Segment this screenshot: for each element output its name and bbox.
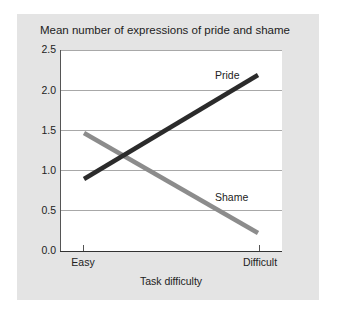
y-tick-label: 1.5 (30, 124, 56, 136)
series-label-shame: Shame (215, 191, 248, 203)
gridlines (60, 51, 282, 211)
shame-line (84, 133, 258, 233)
y-tick-label: 2.0 (30, 84, 56, 96)
series-label-pride: Pride (215, 69, 240, 81)
x-tick-label-easy: Easy (63, 256, 103, 268)
y-tick-label: 1.0 (30, 164, 56, 176)
x-tick-label-difficult: Difficult (234, 256, 286, 268)
x-axis-label: Task difficulty (60, 275, 282, 287)
y-tick-label: 2.5 (30, 43, 56, 55)
y-tick-label: 0.0 (30, 244, 56, 256)
y-tick-label: 0.5 (30, 204, 56, 216)
